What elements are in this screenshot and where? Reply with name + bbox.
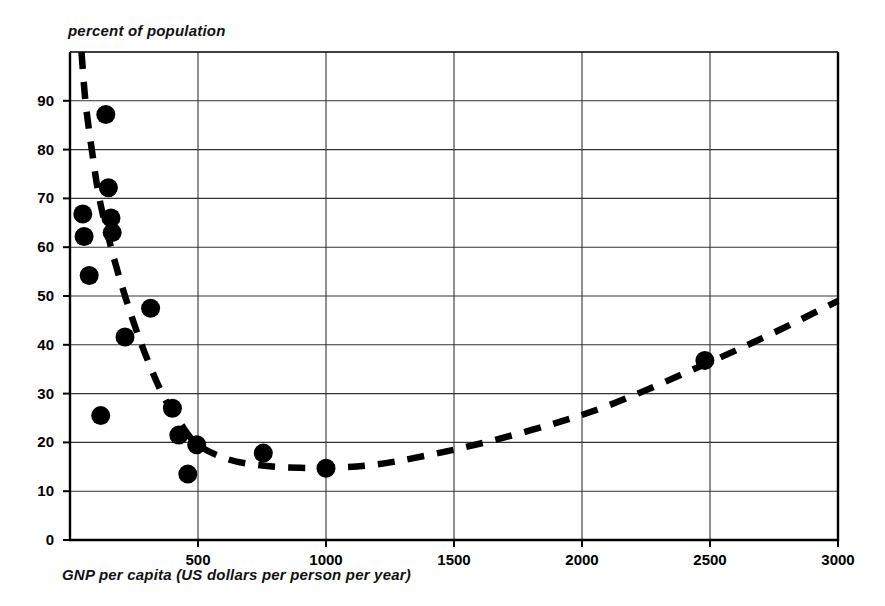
x-tick-label: 2000 <box>552 551 612 568</box>
y-tick-label: 10 <box>12 482 54 499</box>
x-tick-label: 1000 <box>296 551 356 568</box>
y-tick-label: 0 <box>12 531 54 548</box>
plot-area <box>0 0 885 606</box>
y-tick-label: 70 <box>12 189 54 206</box>
data-points <box>73 105 714 484</box>
x-tick-label: 2500 <box>680 551 740 568</box>
x-tick-label: 1500 <box>424 551 484 568</box>
chart-container: percent of population GNP per capita (US… <box>0 0 885 606</box>
y-tick-label: 90 <box>12 92 54 109</box>
y-tick-label: 80 <box>12 141 54 158</box>
x-tick-label: 3000 <box>808 551 868 568</box>
tick-marks <box>63 101 838 547</box>
y-tick-label: 30 <box>12 385 54 402</box>
y-tick-label: 40 <box>12 336 54 353</box>
trend-curve <box>82 52 839 468</box>
x-tick-label: 500 <box>168 551 228 568</box>
y-tick-label: 20 <box>12 433 54 450</box>
y-tick-label: 60 <box>12 238 54 255</box>
y-tick-label: 50 <box>12 287 54 304</box>
